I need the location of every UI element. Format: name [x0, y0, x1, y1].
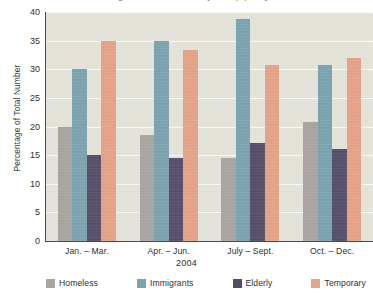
legend-label: Homeless — [59, 278, 98, 288]
x-axis-tick-label: July – Sept. — [227, 246, 273, 256]
y-axis-tick-label: 30 — [10, 65, 40, 74]
legend-swatch-icon — [233, 279, 242, 288]
y-axis-line — [45, 12, 46, 242]
x-axis-tick-label: Jan. – Mar. — [65, 246, 109, 256]
bar — [140, 135, 155, 241]
chart-legend: HomelessImmigrantsElderlyTemporary — [46, 278, 366, 288]
bar — [169, 158, 184, 241]
y-axis-tick-label: 15 — [10, 151, 40, 160]
x-axis-line — [45, 241, 373, 242]
legend-item: Homeless — [46, 278, 98, 288]
y-axis-tick-label: 10 — [10, 179, 40, 188]
x-axis-tick-label: Apr. – Jun. — [148, 246, 190, 256]
bar — [347, 58, 362, 241]
legend-item: Temporary — [311, 278, 366, 288]
x-axis-tick-label: Oct. – Dec. — [310, 246, 354, 256]
bar — [303, 122, 318, 241]
x-axis-title: 2004 — [0, 258, 373, 268]
legend-label: Elderly — [246, 278, 273, 288]
legend-swatch-icon — [46, 279, 55, 288]
bar — [183, 50, 198, 241]
bar — [250, 143, 265, 241]
bar — [318, 65, 333, 241]
y-axis-tick-label: 40 — [10, 8, 40, 17]
bar — [87, 155, 102, 241]
plot-area — [46, 12, 373, 241]
y-axis-tick-label: 5 — [10, 208, 40, 217]
y-axis-tick-label: 35 — [10, 36, 40, 45]
bar — [101, 41, 116, 241]
legend-label: Temporary — [324, 278, 366, 288]
legend-item: Immigrants — [137, 278, 194, 288]
y-axis-tick-label: 25 — [10, 93, 40, 102]
legend-label: Immigrants — [150, 278, 194, 288]
legend-swatch-icon — [311, 279, 320, 288]
bar — [221, 158, 236, 241]
bar — [72, 69, 87, 241]
bar — [332, 149, 347, 241]
bar — [236, 19, 251, 241]
gridline — [46, 41, 373, 42]
y-axis-tick-label: 20 — [10, 122, 40, 131]
chart-title: Percentage of Total Number by Group per … — [0, 0, 373, 2]
bar — [58, 127, 73, 242]
legend-swatch-icon — [137, 279, 146, 288]
legend-item: Elderly — [233, 278, 273, 288]
y-axis-tick-label: 0 — [10, 237, 40, 246]
bar — [154, 41, 169, 241]
bar — [265, 65, 280, 241]
gridline — [46, 12, 373, 13]
bar-chart: Percentage of Total Number by Group per … — [0, 0, 373, 301]
